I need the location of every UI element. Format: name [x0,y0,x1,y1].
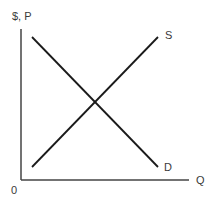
demand-label: D [164,162,172,173]
supply-demand-diagram: $, P Q 0 S D [0,0,216,200]
origin-label: 0 [11,185,17,196]
supply-label: S [165,30,172,41]
y-axis-label: $, P [12,11,32,22]
diagram-canvas [0,0,216,200]
x-axis-label: Q [196,175,205,186]
